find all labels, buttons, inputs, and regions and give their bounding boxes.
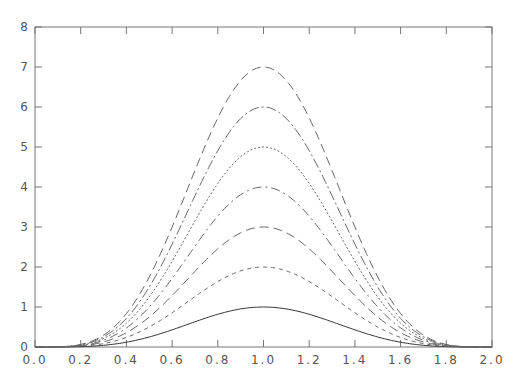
- line-chart: 0.00.20.40.60.81.01.21.41.61.82.00123456…: [0, 0, 524, 382]
- curve-5: [35, 147, 492, 347]
- curve-7: [35, 67, 492, 347]
- y-tick-label: 2: [20, 260, 30, 274]
- x-tick-label: 1.8: [434, 353, 459, 367]
- y-tick-label: 6: [20, 100, 30, 114]
- axes-frame: [35, 27, 492, 347]
- y-tick-label: 3: [20, 220, 30, 234]
- x-tick-label: 0.4: [114, 353, 139, 367]
- x-tick-label: 0.2: [68, 353, 93, 367]
- plot-border: [35, 27, 492, 347]
- x-tick-label: 0.8: [205, 353, 230, 367]
- curve-3: [35, 227, 492, 347]
- x-tick-label: 1.4: [342, 353, 367, 367]
- x-tick-label: 1.2: [297, 353, 322, 367]
- y-tick-label: 7: [20, 60, 30, 74]
- y-tick-label: 0: [20, 340, 30, 354]
- x-tick-label: 0.0: [22, 353, 47, 367]
- y-tick-label: 4: [20, 180, 30, 194]
- x-tick-label: 1.6: [388, 353, 413, 367]
- x-tick-label: 0.6: [160, 353, 185, 367]
- tick-labels: 0.00.20.40.60.81.01.21.41.61.82.00123456…: [20, 20, 504, 367]
- curves: [35, 67, 492, 347]
- y-tick-label: 5: [20, 140, 30, 154]
- y-tick-label: 1: [20, 300, 30, 314]
- x-tick-label: 2.0: [479, 353, 504, 367]
- y-tick-label: 8: [20, 20, 30, 34]
- x-tick-label: 1.0: [251, 353, 276, 367]
